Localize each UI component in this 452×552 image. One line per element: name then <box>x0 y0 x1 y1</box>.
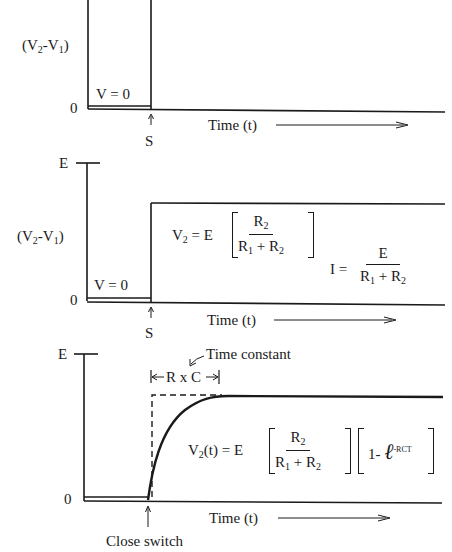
right-bracket <box>428 428 434 474</box>
top-v-zero-label: V = 0 <box>96 87 130 102</box>
top-y-axis-label: (V2-V1) <box>22 38 69 55</box>
top-time-label: Time (t) <box>208 118 257 133</box>
right-bracket <box>345 428 351 474</box>
top-zero-label: 0 <box>70 101 78 116</box>
middle-v-zero-label: V = 0 <box>94 278 128 293</box>
i-equation-lhs: I = <box>330 262 347 277</box>
v2t-fraction: R2 R1 + R2 <box>275 430 321 472</box>
middle-baseline <box>87 302 445 305</box>
bottom-zero-label: 0 <box>64 492 72 507</box>
right-bracket <box>308 212 314 258</box>
bottom-e-label: E <box>58 347 67 362</box>
v2t-equation-lhs: V2(t) = E <box>188 443 243 460</box>
middle-y-axis-label: (V2-V1) <box>17 229 64 246</box>
middle-e-label: E <box>59 156 68 171</box>
top-baseline <box>88 109 445 112</box>
middle-zero-label: 0 <box>70 293 78 308</box>
bottom-time-label: Time (t) <box>209 511 258 526</box>
middle-switch-label: S <box>145 326 153 341</box>
rc-label: R x C <box>166 370 201 385</box>
time-constant-label: Time constant <box>206 347 291 362</box>
left-bracket <box>358 428 364 474</box>
close-switch-label: Close switch <box>106 534 183 549</box>
i-fraction: E R1 + R2 <box>360 246 406 286</box>
v2-fraction: R2 R1 + R2 <box>238 214 284 256</box>
top-switch-label: S <box>145 134 153 149</box>
middle-level <box>151 203 445 204</box>
exponential-factor: 1- ℓ-RCT <box>368 441 412 463</box>
bottom-baseline <box>84 501 442 503</box>
middle-time-label: Time (t) <box>207 313 256 328</box>
v2-equation-lhs: V2 = E <box>172 228 213 245</box>
